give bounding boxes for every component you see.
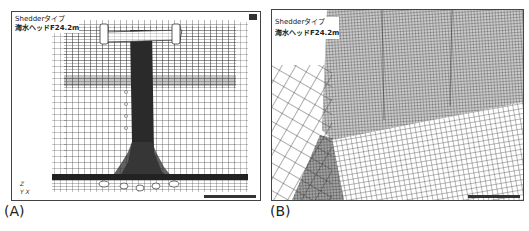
- axis-x-label: X: [26, 188, 30, 195]
- scale-bar: [204, 195, 256, 198]
- panel-a-title-line2: 海水ヘッドF24.2m: [15, 24, 79, 33]
- panel-b-title: Shedderタイプ 海水ヘッドF24.2m: [275, 17, 339, 39]
- axis-y-label: Y: [20, 188, 24, 195]
- panel-b-title-line1: Shedderタイプ: [275, 17, 339, 28]
- panel-a-caption: (A): [4, 203, 25, 219]
- panel-a-fem-mesh: Shedderタイプ 海水ヘッドF24.2m Z Y X: [11, 11, 261, 201]
- panel-a-title-line1: Shedderタイプ: [15, 15, 79, 24]
- panel-b-fem-mesh: Shedderタイプ 海水ヘッドF24.2m: [271, 9, 524, 201]
- scale-bar: [468, 195, 520, 198]
- fem-mesh-front-view: [12, 12, 260, 200]
- view-badge-icon: [249, 14, 257, 20]
- panel-a-title: Shedderタイプ 海水ヘッドF24.2m: [15, 15, 79, 33]
- axis-z-label: Z: [20, 180, 24, 187]
- axis-triad-icon: Y X: [20, 188, 30, 195]
- panel-b-title-line2: 海水ヘッドF24.2m: [275, 28, 339, 39]
- panel-b-caption: (B): [270, 203, 291, 219]
